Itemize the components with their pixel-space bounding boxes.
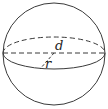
sphere-figure: d r xyxy=(0,0,108,109)
diameter-label: d xyxy=(55,38,63,53)
equator-front-solid xyxy=(3,53,105,69)
sphere-diagram: d r xyxy=(0,0,108,109)
radius-label: r xyxy=(45,56,52,71)
equator-back-dashed xyxy=(3,37,105,53)
sphere-outline xyxy=(3,3,105,105)
